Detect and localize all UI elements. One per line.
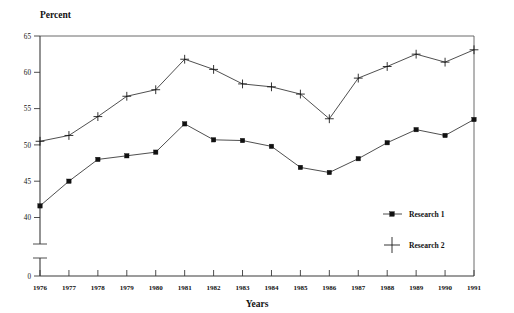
data-point-square-marker bbox=[96, 157, 100, 161]
x-tick-label-1991: 1991 bbox=[467, 284, 482, 292]
data-point-square-marker bbox=[182, 122, 186, 126]
x-axis-title: Years bbox=[246, 299, 269, 309]
y-tick-label-65: 65 bbox=[24, 33, 32, 41]
data-point-square-marker bbox=[414, 127, 418, 131]
data-point-square-marker bbox=[356, 156, 360, 160]
data-point-square-marker bbox=[269, 144, 273, 148]
series-layer bbox=[36, 45, 479, 208]
y-tick-label-0: 0 bbox=[27, 273, 31, 281]
data-point-square-marker bbox=[154, 150, 158, 154]
x-tick-label-1987: 1987 bbox=[351, 284, 366, 292]
legend-label-research-1: Research 1 bbox=[409, 210, 445, 219]
series-1 bbox=[38, 117, 476, 208]
y-axis-ticks: 65 60 55 50 45 40 0 bbox=[24, 33, 40, 281]
x-tick-label-1985: 1985 bbox=[293, 284, 308, 292]
legend-marker-square-icon bbox=[390, 212, 395, 217]
data-point-square-marker bbox=[240, 138, 244, 142]
x-tick-label-1977: 1977 bbox=[62, 284, 77, 292]
x-tick-label-1976: 1976 bbox=[33, 284, 48, 292]
x-tick-label-1982: 1982 bbox=[207, 284, 222, 292]
x-axis-ticks: 1976 1977 1978 1979 1980 1981 1982 1983 … bbox=[33, 270, 482, 292]
data-point-square-marker bbox=[38, 204, 42, 208]
x-tick-label-1986: 1986 bbox=[322, 284, 337, 292]
x-tick-label-1981: 1981 bbox=[178, 284, 193, 292]
line-chart: Percent 65 60 55 50 45 40 0 bbox=[0, 0, 514, 313]
x-tick-label-1984: 1984 bbox=[264, 284, 279, 292]
chart-figure: Percent 65 60 55 50 45 40 0 bbox=[0, 0, 514, 313]
series-line-1 bbox=[40, 119, 474, 205]
y-tick-label-60: 60 bbox=[24, 69, 32, 77]
y-tick-label-45: 45 bbox=[24, 178, 32, 186]
y-tick-label-50: 50 bbox=[24, 142, 32, 150]
x-tick-label-1990: 1990 bbox=[438, 284, 453, 292]
y-tick-label-55: 55 bbox=[24, 105, 32, 113]
x-tick-label-1980: 1980 bbox=[149, 284, 164, 292]
x-tick-label-1983: 1983 bbox=[236, 284, 251, 292]
chart-legend: Research 1 Research 2 bbox=[383, 210, 445, 253]
x-tick-label-1979: 1979 bbox=[120, 284, 135, 292]
data-point-square-marker bbox=[298, 165, 302, 169]
x-tick-label-1988: 1988 bbox=[380, 284, 395, 292]
data-point-square-marker bbox=[125, 154, 129, 158]
series-line-2 bbox=[40, 50, 474, 141]
legend-entry-research-2: Research 2 bbox=[384, 237, 445, 253]
x-tick-label-1978: 1978 bbox=[91, 284, 106, 292]
data-point-square-marker bbox=[472, 117, 476, 121]
x-tick-label-1989: 1989 bbox=[409, 284, 424, 292]
series-2 bbox=[36, 45, 479, 145]
data-point-square-marker bbox=[385, 141, 389, 145]
data-point-square-marker bbox=[211, 138, 215, 142]
legend-entry-research-1: Research 1 bbox=[383, 210, 445, 219]
data-point-square-marker bbox=[327, 170, 331, 174]
y-axis-title: Percent bbox=[40, 10, 72, 20]
y-tick-label-40: 40 bbox=[24, 214, 32, 222]
data-point-square-marker bbox=[67, 179, 71, 183]
legend-label-research-2: Research 2 bbox=[409, 241, 445, 250]
data-point-square-marker bbox=[443, 133, 447, 137]
